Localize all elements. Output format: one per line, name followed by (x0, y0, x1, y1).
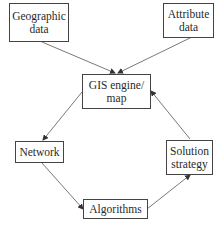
node-solution-strategy: Solution strategy (166, 140, 213, 175)
node-label-line: Algorithms (89, 203, 141, 216)
node-attribute-data: Attribute data (163, 3, 214, 38)
edge-geographic-to-gis (42, 42, 115, 73)
node-label-line: Geographic (12, 10, 66, 23)
edge-solution-to-gis (151, 91, 190, 139)
node-gis-engine-map: GIS engine/ map (82, 74, 151, 109)
edge-attribute-to-gis (118, 38, 190, 73)
edge-network-to-algorithms (42, 163, 83, 209)
node-label-line: data (168, 21, 210, 34)
node-label-line: Solution (170, 145, 209, 158)
node-label-line: data (12, 23, 66, 36)
node-label-line: strategy (170, 158, 209, 171)
edge-gis-to-network (43, 92, 82, 140)
node-label-line: map (89, 92, 144, 105)
edge-algorithms-to-solution (147, 175, 190, 209)
node-label-line: Attribute (168, 8, 210, 21)
node-algorithms: Algorithms (83, 199, 148, 219)
node-network: Network (15, 141, 64, 163)
node-label-line: GIS engine/ (89, 79, 144, 92)
node-label-line: Network (19, 146, 59, 159)
node-geographic-data: Geographic data (9, 3, 69, 42)
